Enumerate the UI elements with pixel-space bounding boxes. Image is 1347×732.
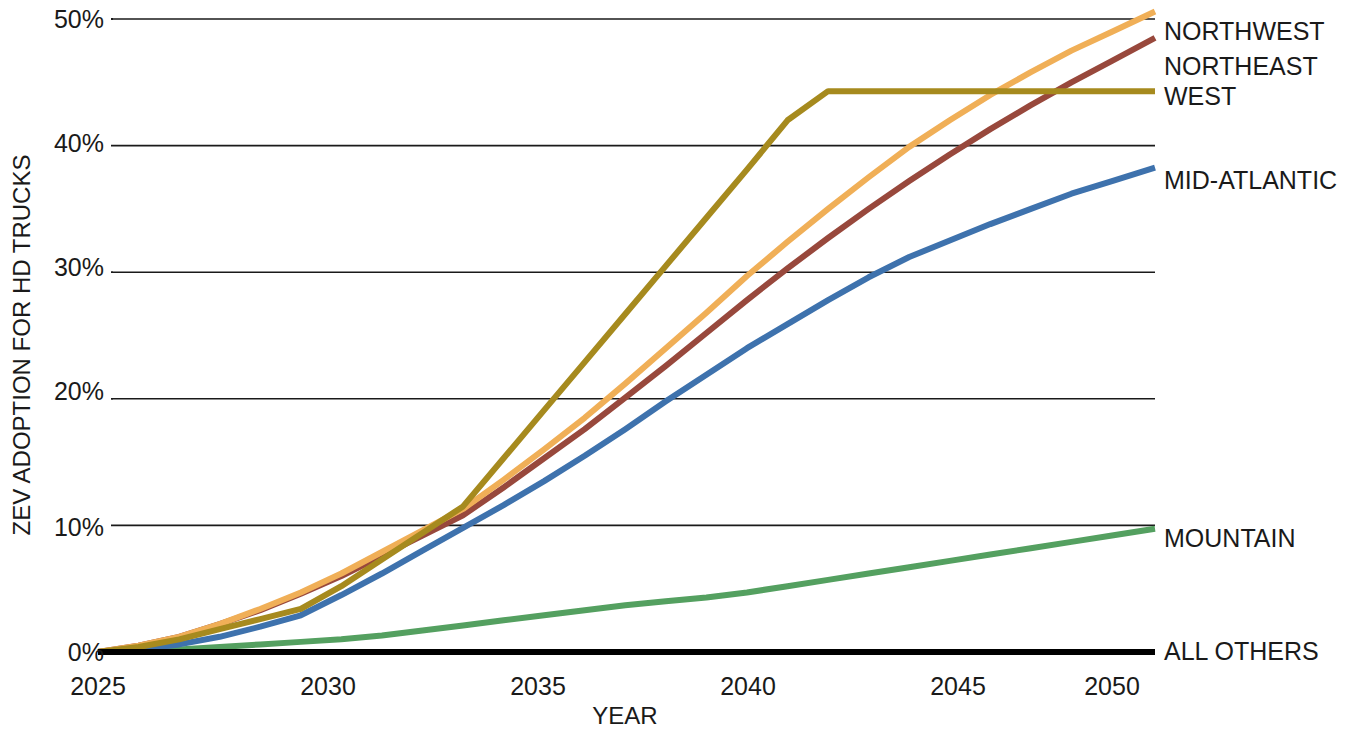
series-line-west — [98, 91, 1155, 652]
series-line-mountain — [98, 529, 1155, 652]
x-tick-label-2025: 2025 — [70, 672, 126, 700]
zev-adoption-line-chart: 50% 40% 30% 20% 10% 0% 2025 2030 2035 20… — [0, 0, 1347, 732]
x-axis-title: YEAR — [592, 702, 657, 729]
series-label-all-others: ALL OTHERS — [1164, 637, 1319, 665]
x-tick-label-2040: 2040 — [720, 672, 776, 700]
x-tick-label-2050: 2050 — [1084, 672, 1140, 700]
y-tick-label-0: 0% — [68, 638, 104, 666]
series-line-northeast — [98, 38, 1155, 652]
gridlines-group — [113, 19, 1155, 652]
series-label-mountain: MOUNTAIN — [1164, 524, 1295, 552]
y-tick-label-30: 30% — [54, 253, 104, 281]
series-label-west: WEST — [1164, 82, 1236, 110]
y-tick-label-40: 40% — [54, 129, 104, 157]
series-line-mid-atlantic — [98, 168, 1155, 652]
x-tick-label-2035: 2035 — [510, 672, 566, 700]
y-tick-label-10: 10% — [54, 513, 104, 541]
chart-canvas: 50% 40% 30% 20% 10% 0% 2025 2030 2035 20… — [0, 0, 1347, 732]
y-axis-title: ZEV ADOPTION FOR HD TRUCKS — [8, 155, 35, 536]
x-tick-label-2045: 2045 — [930, 672, 986, 700]
y-tick-label-50: 50% — [54, 5, 104, 33]
tickmarks-group — [111, 19, 113, 652]
data-series-group — [98, 12, 1155, 652]
y-tick-label-20: 20% — [54, 377, 104, 405]
series-label-northeast: NORTHEAST — [1164, 52, 1318, 80]
series-label-northwest: NORTHWEST — [1164, 17, 1325, 45]
x-tick-label-2030: 2030 — [300, 672, 356, 700]
series-label-mid-atlantic: MID-ATLANTIC — [1164, 166, 1337, 194]
